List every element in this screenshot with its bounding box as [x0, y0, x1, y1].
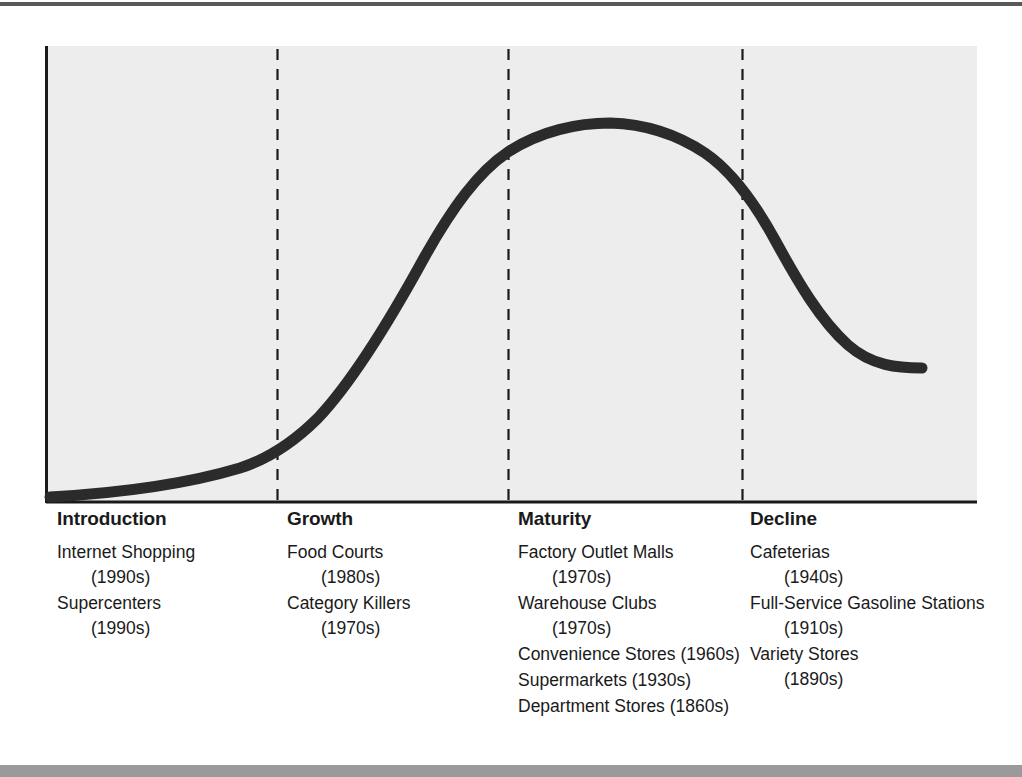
stage-item: Variety Stores (1890s): [750, 642, 1015, 692]
stage-item-name-year: Convenience Stores (1960s): [518, 642, 753, 667]
top-divider-rule: [0, 2, 1022, 6]
stage-item-year: (1970s): [518, 616, 753, 641]
life-cycle-figure: Introduction Internet Shopping (1990s) S…: [0, 0, 1022, 777]
stage-item-name: Supercenters: [57, 591, 282, 616]
stage-item: Category Killers (1970s): [287, 591, 512, 641]
stage-column-decline: Decline Cafeterias (1940s) Full-Service …: [750, 508, 1015, 693]
stage-item-name-year: Department Stores (1860s): [518, 694, 753, 719]
stage-item-year: (1940s): [750, 565, 1015, 590]
stage-item-year: (1990s): [57, 565, 282, 590]
stage-item-name: Food Courts: [287, 540, 512, 565]
stage-item: Convenience Stores (1960s): [518, 642, 753, 667]
stage-item-year: (1970s): [518, 565, 753, 590]
stage-item-year: (1990s): [57, 616, 282, 641]
stage-item-name: Factory Outlet Malls: [518, 540, 753, 565]
stage-title-introduction: Introduction: [57, 508, 282, 530]
stage-item-year: (1910s): [750, 616, 1015, 641]
stage-item: Full-Service Gasoline Stations (1910s): [750, 591, 1015, 641]
stage-item: Department Stores (1860s): [518, 694, 753, 719]
stage-labels-container: Introduction Internet Shopping (1990s) S…: [0, 508, 1022, 748]
stage-item-name-year: Supermarkets (1930s): [518, 668, 753, 693]
stage-item: Internet Shopping (1990s): [57, 540, 282, 590]
stage-item-name: Warehouse Clubs: [518, 591, 753, 616]
stage-title-decline: Decline: [750, 508, 1015, 530]
chart-plot-area: [46, 46, 977, 503]
stage-column-introduction: Introduction Internet Shopping (1990s) S…: [57, 508, 282, 642]
stage-item-name: Cafeterias: [750, 540, 1015, 565]
bottom-divider-bar: [0, 765, 1022, 777]
stage-item: Cafeterias (1940s): [750, 540, 1015, 590]
stage-item: Supermarkets (1930s): [518, 668, 753, 693]
stage-item-year: (1970s): [287, 616, 512, 641]
stage-column-growth: Growth Food Courts (1980s) Category Kill…: [287, 508, 512, 642]
stage-item: Supercenters (1990s): [57, 591, 282, 641]
stage-item-name: Full-Service Gasoline Stations: [750, 591, 1015, 616]
stage-title-maturity: Maturity: [518, 508, 753, 530]
stage-item-name: Variety Stores: [750, 642, 1015, 667]
stage-column-maturity: Maturity Factory Outlet Malls (1970s) Wa…: [518, 508, 753, 720]
stage-item-name: Internet Shopping: [57, 540, 282, 565]
stage-item-year: (1980s): [287, 565, 512, 590]
stage-title-growth: Growth: [287, 508, 512, 530]
stage-item: Warehouse Clubs (1970s): [518, 591, 753, 641]
stage-item: Food Courts (1980s): [287, 540, 512, 590]
stage-item-year: (1890s): [750, 667, 1015, 692]
stage-item-name: Category Killers: [287, 591, 512, 616]
stage-item: Factory Outlet Malls (1970s): [518, 540, 753, 590]
